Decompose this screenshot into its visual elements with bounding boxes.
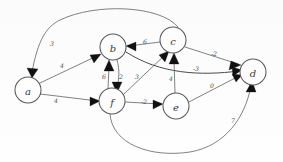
edge-label-e-d: 0 xyxy=(210,82,214,89)
edge-a-f xyxy=(40,94,98,101)
edge-label-c-d: -2 xyxy=(211,50,217,57)
arrowhead-e-c xyxy=(169,53,179,64)
edge-label-c-a: 3 xyxy=(50,40,54,47)
node-b[interactable]: b xyxy=(100,34,126,60)
node-e[interactable]: e xyxy=(163,93,189,119)
node-e-label: e xyxy=(173,102,179,113)
edge-label-e-c: 4 xyxy=(168,75,173,82)
edge-label-b-d: -3 xyxy=(193,65,199,72)
edge-label-a-b: 4 xyxy=(59,62,64,69)
edge-label-b-f: 2 xyxy=(118,73,123,80)
graph-svg: 3 4 4 6 6 2 3 4 -2 - xyxy=(0,0,283,162)
node-d-label: d xyxy=(250,68,256,79)
edge-label-f-c: 3 xyxy=(135,73,139,80)
arrowhead-f-b xyxy=(104,60,114,71)
node-b-label: b xyxy=(110,43,116,54)
node-a-label: a xyxy=(25,86,31,97)
node-c[interactable]: c xyxy=(160,27,186,53)
edge-label-f-e: -2 xyxy=(141,98,147,105)
edge-e-c xyxy=(174,60,175,93)
node-c-label: c xyxy=(170,36,176,47)
edge-e-d xyxy=(189,76,239,102)
edge-a-b xyxy=(40,55,99,83)
node-f[interactable]: f xyxy=(99,88,125,114)
edge-label-f-b: 6 xyxy=(102,73,106,80)
edge-f-c xyxy=(124,54,166,94)
arrowhead-c-b xyxy=(126,42,136,51)
node-d[interactable]: d xyxy=(240,59,266,85)
arrowhead-a-b xyxy=(90,54,101,63)
edge-label-c-b: 6 xyxy=(143,38,147,45)
arrowhead-f-c xyxy=(159,51,169,62)
graph-canvas: 3 4 4 6 6 2 3 4 -2 - xyxy=(0,0,283,162)
edge-label-a-f: 4 xyxy=(53,97,58,104)
arrowhead-f-e xyxy=(153,100,163,109)
edge-label-f-d: 7 xyxy=(231,117,235,124)
node-a[interactable]: a xyxy=(15,77,41,103)
edge-b-d xyxy=(126,52,239,73)
